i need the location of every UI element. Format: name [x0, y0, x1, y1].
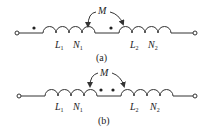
coupled-inductors-diagram: M L1 N1 L2 N2 (a) M L1 N1 L2 N2 (b): [0, 0, 208, 136]
caption-b: (b): [98, 115, 110, 127]
terminal-right-a: [193, 31, 197, 35]
circuit-a: M L1 N1 L2 N2 (a): [15, 5, 197, 64]
coil-l2-a: [119, 27, 171, 33]
mutual-arrow-left-b: [90, 73, 98, 86]
n1-label-b: N1: [72, 101, 83, 113]
circuit-b: M L1 N1 L2 N2 (b): [17, 67, 197, 127]
polarity-dot-2-b: [111, 88, 114, 91]
l2-label-b: L2: [129, 101, 139, 113]
mutual-arrow-left-a: [88, 12, 96, 26]
mutual-arrow-right-a: [110, 12, 123, 24]
terminal-left-a: [15, 31, 19, 35]
mutual-arrow-right-b: [112, 73, 124, 86]
n1-label-a: N1: [72, 39, 83, 51]
terminal-left-b: [17, 94, 21, 98]
n2-label-b: N2: [149, 101, 160, 113]
coil-l1-b: [45, 90, 97, 96]
n2-label-a: N2: [147, 39, 158, 51]
polarity-dot-1-b: [99, 88, 102, 91]
terminal-right-b: [193, 94, 197, 98]
l1-label-b: L1: [54, 101, 64, 113]
polarity-dot-2-a: [109, 26, 112, 29]
mutual-label-a: M: [97, 5, 107, 16]
mutual-label-b: M: [99, 67, 109, 78]
l2-label-a: L2: [129, 39, 139, 51]
caption-a: (a): [96, 52, 107, 64]
coil-l2-b: [121, 90, 160, 96]
coil-l1-a: [43, 27, 95, 33]
polarity-dot-1-a: [32, 26, 35, 29]
l1-label-a: L1: [54, 39, 64, 51]
